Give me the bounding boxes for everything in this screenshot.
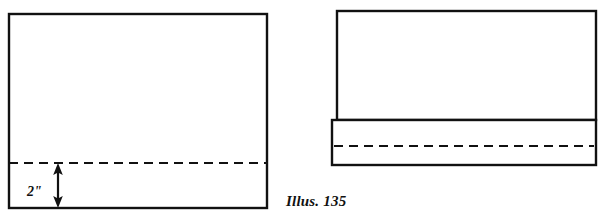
flat-fabric-panel: 2"	[9, 14, 267, 208]
folded-fabric-panel	[332, 11, 596, 165]
folded-fabric-body-outline	[337, 11, 596, 120]
illustration-canvas: 2" Illus. 135	[0, 0, 602, 218]
flat-fabric-outline	[9, 14, 267, 208]
hem-band-outline	[332, 120, 596, 165]
hem-depth-dimension-label: 2"	[26, 184, 42, 199]
figure-caption: Illus. 135	[285, 193, 347, 209]
figure-page: 2" Illus. 135	[0, 0, 602, 218]
